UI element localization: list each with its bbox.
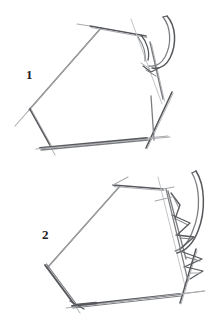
figure-2-label: 2 — [42, 228, 49, 241]
figure-1-drawing — [0, 0, 223, 163]
figure-2-drawing — [0, 163, 223, 326]
figure-1-label: 1 — [26, 68, 33, 81]
illustration-sheet: 1 2 — [0, 0, 223, 326]
